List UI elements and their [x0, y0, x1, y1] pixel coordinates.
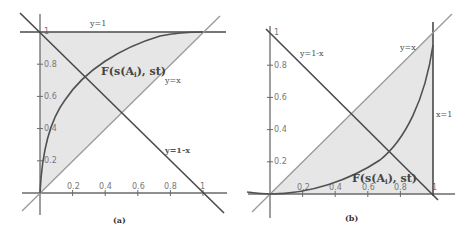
panel-b-label-yx: y=x — [399, 43, 416, 52]
panel-b-ytick-0.8: 0.8 — [274, 61, 287, 70]
panel-b-label-x1: x=1 — [436, 110, 452, 119]
panel-b-ytick-0.2: 0.2 — [274, 157, 287, 166]
panel-a-label-yx: y=x — [164, 76, 181, 85]
panel-a-xtick-0.8: 0.8 — [164, 182, 177, 191]
panel-a-ytick-0.8: 0.8 — [44, 60, 57, 69]
panel-b: 0.2 0.4 0.6 0.8 1 0.2 0.4 0.6 0.8 1 y=1-… — [247, 14, 455, 223]
panel-a-xtick-0.4: 0.4 — [99, 182, 112, 191]
panel-a-xtick-0.2: 0.2 — [67, 182, 80, 191]
panel-b-label-y1mx: y=1-x — [299, 49, 324, 58]
panel-a-ytick-0.2: 0.2 — [44, 156, 57, 165]
panel-b-ytick-0.6: 0.6 — [274, 93, 287, 102]
panel-a-ytick-0.6: 0.6 — [44, 92, 57, 101]
panel-b-ytick-1: 1 — [274, 28, 279, 37]
panel-b-caption: (b) — [345, 213, 358, 223]
panel-a-label-y1: y=1 — [89, 19, 106, 28]
figure-canvas: 0.2 0.4 0.6 0.8 1 0.2 0.4 0.6 0.8 1 y=1 … — [0, 0, 467, 237]
panel-a: 0.2 0.4 0.6 0.8 1 0.2 0.4 0.6 0.8 1 y=1 … — [20, 13, 227, 225]
panel-a-label-y1mx: y=1-x — [164, 145, 190, 155]
panel-b-curve-label: F(s(Ai), st) — [352, 172, 417, 186]
panel-a-curve-label: F(s(Ai), st) — [101, 65, 166, 79]
panel-b-ytick-0.4: 0.4 — [274, 125, 287, 134]
panel-a-caption: (a) — [113, 215, 126, 225]
panel-a-xtick-0.6: 0.6 — [132, 182, 145, 191]
